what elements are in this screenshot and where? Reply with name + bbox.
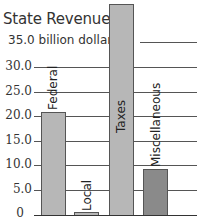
ytick-10: 10.0	[0, 157, 32, 171]
bar-label-taxes: Taxes	[114, 100, 128, 133]
gridline-35	[140, 42, 197, 43]
ytick-5: 5.0	[0, 182, 32, 196]
bar-federal	[41, 112, 66, 216]
chart-title: State Revenues	[3, 10, 118, 28]
ytick-15: 15.0	[0, 133, 32, 147]
top-tick-with-unit: 35.0 billion dollars	[8, 33, 118, 47]
ytick-25: 25.0	[0, 84, 32, 98]
bar-label-local: Local	[80, 180, 94, 211]
bar-label-federal: Federal	[46, 66, 60, 110]
x-axis-baseline	[34, 215, 197, 216]
ytick-0: 0	[0, 206, 24, 218]
ytick-30: 30.0	[0, 59, 32, 73]
bar-label-miscellaneous: Miscellaneous	[149, 83, 163, 167]
ytick-20: 20.0	[0, 108, 32, 122]
bar-miscellaneous	[143, 169, 168, 216]
